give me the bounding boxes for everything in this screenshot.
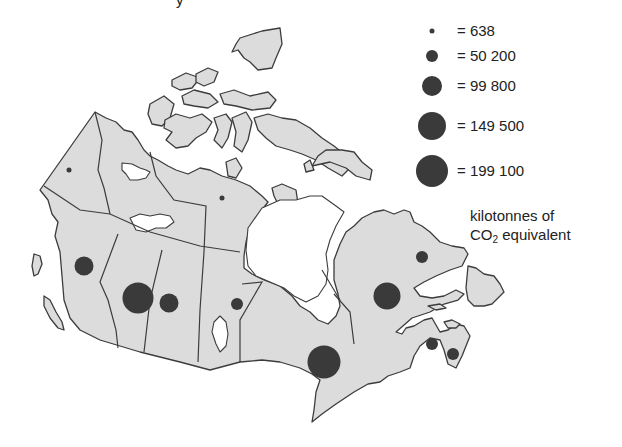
bubble-newfoundland-labrador <box>416 251 428 263</box>
bubble-nova-scotia <box>447 348 459 360</box>
legend-label-199100: = 199 100 <box>457 163 524 178</box>
bubble-ontario <box>308 346 341 379</box>
bubble-alberta <box>123 283 154 314</box>
prince-edward-island <box>444 320 460 328</box>
haida-gwaii <box>32 254 42 276</box>
legend-label-50200: = 50 200 <box>457 48 516 63</box>
bubble-yukon <box>67 168 72 173</box>
bubble-quebec <box>374 283 401 310</box>
legend-label-149500: = 149 500 <box>457 118 524 133</box>
bubble-nunavut <box>220 196 225 201</box>
bubble-british-columbia <box>75 257 94 276</box>
unit-line-2: CO2 equivalent <box>470 225 571 249</box>
unit-equivalent: equivalent <box>498 226 571 243</box>
legend-bubble-199100 <box>416 155 448 187</box>
bubble-saskatchewan <box>160 294 179 313</box>
newfoundland-island <box>466 266 504 306</box>
unit-line-1: kilotonnes of <box>470 206 571 225</box>
bubble-new-brunswick <box>426 338 438 350</box>
legend-bubble-638 <box>430 29 435 34</box>
vancouver-island <box>44 296 64 330</box>
legend-bubble-50200 <box>426 50 438 62</box>
legend-bubble-149500 <box>418 112 446 140</box>
legend-unit: kilotonnes of CO2 equivalent <box>470 206 571 249</box>
legend-bubbles <box>416 29 448 188</box>
legend-bubble-99800 <box>422 76 442 96</box>
legend-label-638: = 638 <box>457 23 495 38</box>
bubble-manitoba <box>231 298 243 310</box>
title-fragment: y <box>176 0 184 8</box>
legend-label-99800: = 99 800 <box>457 78 516 93</box>
unit-co: CO <box>470 226 493 243</box>
